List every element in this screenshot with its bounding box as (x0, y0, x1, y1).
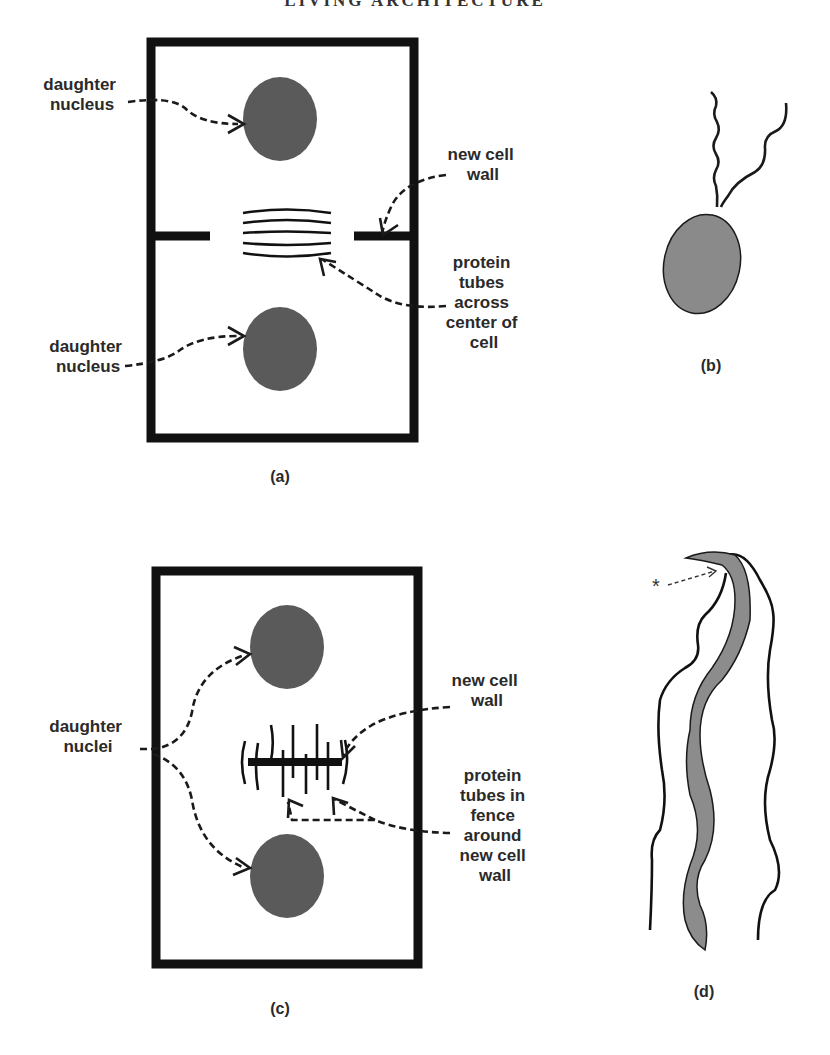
label-new-cell-wall: new cell wall (452, 671, 523, 710)
label-protein-tubes: protein tubes across center of cell (446, 253, 523, 352)
arrowhead-icon (234, 647, 250, 665)
caption-a: (a) (270, 468, 290, 485)
cell-body (654, 207, 749, 321)
figure-canvas: daughter nucleus daughter nucleus new ce… (0, 0, 830, 1055)
arrow-marker (668, 571, 715, 585)
flagellum-left (711, 92, 719, 207)
arrow-protein-tubes (323, 260, 446, 307)
arrow-nucleus-bottom (125, 336, 238, 366)
arrow-nucleus-top (128, 100, 238, 124)
arrow-new-wall (343, 707, 450, 756)
label-daughter-nucleus-top: daughter nucleus (43, 75, 120, 114)
arrow-nucleus-bottom (153, 754, 245, 868)
daughter-nucleus-bottom (250, 834, 324, 918)
caption-b: (b) (701, 357, 721, 374)
arrowhead-icon (233, 858, 250, 875)
panel-d: * (d) (650, 552, 779, 1000)
panel-a: daughter nucleus daughter nucleus new ce… (43, 42, 522, 485)
label-daughter-nuclei: daughter nuclei (49, 717, 126, 756)
protein-tubes-bundle (243, 210, 331, 257)
inner-cell-body (683, 552, 750, 950)
label-new-cell-wall: new cell wall (448, 145, 519, 184)
caption-c: (c) (270, 1000, 290, 1017)
flagellum-right (721, 103, 786, 207)
daughter-nucleus-bottom (243, 307, 317, 391)
arrow-protein-tubes-2 (334, 799, 375, 820)
daughter-nucleus-top (250, 605, 324, 689)
label-daughter-nucleus-bottom: daughter nucleus (49, 337, 126, 376)
panel-b: (b) (654, 92, 786, 374)
daughter-nucleus-top (243, 77, 317, 161)
label-protein-tubes: protein tubes in fence around new cell w… (460, 766, 531, 885)
caption-d: (d) (694, 983, 714, 1000)
panel-c: daughter nuclei new cell wall protein tu… (49, 571, 530, 1017)
asterisk-marker: * (652, 575, 660, 597)
